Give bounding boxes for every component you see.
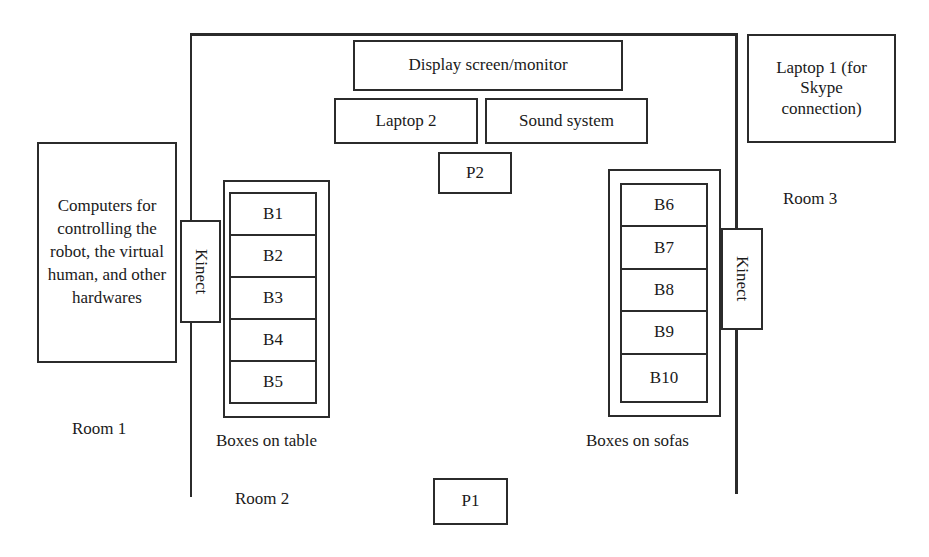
computers-label: Computers for controlling the robot, the… bbox=[47, 195, 167, 310]
background-bleed-text bbox=[300, 14, 304, 31]
room2-top-wall bbox=[190, 33, 738, 36]
display-screen-label: Display screen/monitor bbox=[408, 55, 567, 75]
box-b2: B2 bbox=[231, 236, 315, 278]
box-b7: B7 bbox=[622, 227, 706, 269]
laptop2-label: Laptop 2 bbox=[376, 111, 437, 131]
box-b5: B5 bbox=[231, 362, 315, 402]
box-b9: B9 bbox=[622, 312, 706, 354]
kinect-left-box: Kinect bbox=[180, 220, 221, 323]
sofa-box-stack: B6 B7 B8 B9 B10 bbox=[620, 183, 708, 403]
room2-label: Room 2 bbox=[235, 489, 289, 509]
room1-label: Room 1 bbox=[72, 419, 126, 439]
sound-system-box: Sound system bbox=[485, 98, 648, 144]
table-caption: Boxes on table bbox=[216, 431, 317, 451]
position-p2-label: P2 bbox=[466, 163, 484, 183]
display-screen-box: Display screen/monitor bbox=[353, 40, 623, 91]
kinect-right-label: Kinect bbox=[732, 256, 752, 301]
position-p1-box: P1 bbox=[433, 478, 508, 525]
position-p2-box: P2 bbox=[438, 152, 512, 194]
sound-system-label: Sound system bbox=[519, 111, 614, 131]
position-p1-label: P1 bbox=[462, 491, 480, 511]
box-b10: B10 bbox=[622, 355, 706, 401]
laptop1-label: Laptop 1 (for Skype connection) bbox=[771, 58, 872, 119]
box-b4: B4 bbox=[231, 320, 315, 362]
laptop1-box: Laptop 1 (for Skype connection) bbox=[747, 34, 896, 143]
box-b1: B1 bbox=[231, 194, 315, 236]
box-b6: B6 bbox=[622, 185, 706, 227]
computers-box: Computers for controlling the robot, the… bbox=[37, 142, 177, 363]
room3-label: Room 3 bbox=[783, 189, 837, 209]
kinect-left-label: Kinect bbox=[191, 249, 211, 294]
box-b8: B8 bbox=[622, 270, 706, 312]
kinect-right-box: Kinect bbox=[721, 228, 763, 330]
sofa-caption: Boxes on sofas bbox=[586, 431, 689, 451]
table-box-stack: B1 B2 B3 B4 B5 bbox=[229, 192, 317, 404]
laptop2-box: Laptop 2 bbox=[334, 98, 478, 144]
box-b3: B3 bbox=[231, 278, 315, 320]
